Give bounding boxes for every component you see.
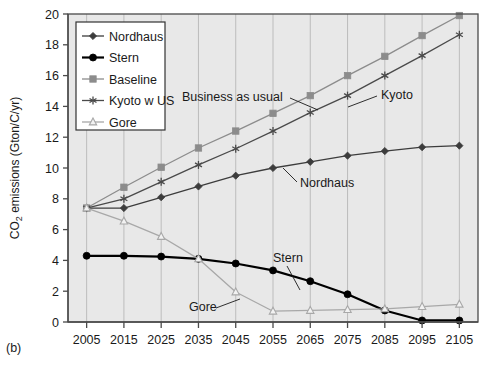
annotation-nordhaus: Nordhaus bbox=[300, 176, 354, 190]
y-tick-label-18: 18 bbox=[45, 38, 59, 52]
point-stern-2055 bbox=[270, 267, 277, 274]
y-tick-label-0: 0 bbox=[52, 316, 59, 330]
point-baseline-2105 bbox=[456, 12, 462, 18]
point-baseline-2035 bbox=[195, 145, 201, 151]
x-tick-label-2045: 2045 bbox=[222, 333, 250, 347]
point-baseline-2085 bbox=[382, 53, 388, 59]
y-tick-label-6: 6 bbox=[52, 223, 59, 237]
y-tick-label-4: 4 bbox=[52, 254, 59, 268]
y-tick-label-10: 10 bbox=[45, 162, 59, 176]
y-tick-label-16: 16 bbox=[45, 69, 59, 83]
point-baseline-2025 bbox=[158, 164, 164, 170]
legend-label-nordhaus: Nordhaus bbox=[109, 30, 163, 44]
x-tick-label-2055: 2055 bbox=[259, 333, 287, 347]
point-stern-2005 bbox=[83, 252, 90, 259]
legend-marker-baseline bbox=[90, 76, 96, 82]
legend-label-stern: Stern bbox=[109, 51, 139, 65]
legend-marker-stern bbox=[90, 54, 97, 61]
y-tick-label-8: 8 bbox=[52, 192, 59, 206]
point-baseline-2065 bbox=[307, 92, 313, 98]
y-tick-label-14: 14 bbox=[45, 100, 59, 114]
annotation-kyoto: Kyoto bbox=[381, 88, 413, 102]
chart-legend: NordhausSternBaselineKyoto w USGore bbox=[76, 22, 174, 130]
point-stern-2025 bbox=[158, 253, 165, 260]
y-tick-label-12: 12 bbox=[45, 131, 59, 145]
x-tick-label-2015: 2015 bbox=[110, 333, 138, 347]
x-tick-label-2105: 2105 bbox=[445, 333, 473, 347]
y-tick-label-20: 20 bbox=[45, 8, 59, 22]
point-baseline-2015 bbox=[121, 184, 127, 190]
figure-panel-b: 02468101214161820 2005201520252035204520… bbox=[0, 0, 492, 365]
co2-emissions-scenarios-chart: 02468101214161820 2005201520252035204520… bbox=[0, 0, 492, 365]
x-tick-label-2065: 2065 bbox=[296, 333, 324, 347]
x-tick-label-2035: 2035 bbox=[185, 333, 213, 347]
point-stern-2015 bbox=[120, 252, 127, 259]
y-axis-title-post: emissions (Gton/C/yr) bbox=[8, 97, 22, 216]
point-baseline-2045 bbox=[233, 128, 239, 134]
legend-label-gore: Gore bbox=[109, 116, 137, 130]
x-tick-label-2005: 2005 bbox=[73, 333, 101, 347]
legend-label-baseline: Baseline bbox=[109, 73, 157, 87]
point-stern-2075 bbox=[344, 291, 351, 298]
annotation-gore: Gore bbox=[189, 300, 217, 314]
point-baseline-2055 bbox=[270, 110, 276, 116]
point-stern-2045 bbox=[232, 260, 239, 267]
x-tick-label-2025: 2025 bbox=[147, 333, 175, 347]
annotation-business-as-usual: Business as usual bbox=[182, 90, 283, 104]
point-baseline-2075 bbox=[344, 72, 350, 78]
annotation-stern: Stern bbox=[273, 251, 303, 265]
legend-label-kyoto-w-us: Kyoto w US bbox=[109, 94, 174, 108]
point-baseline-2095 bbox=[419, 32, 425, 38]
x-tick-label-2085: 2085 bbox=[371, 333, 399, 347]
panel-label: (b) bbox=[6, 341, 21, 355]
point-stern-2065 bbox=[307, 278, 314, 285]
x-tick-label-2075: 2075 bbox=[334, 333, 362, 347]
y-tick-label-2: 2 bbox=[52, 285, 59, 299]
x-tick-label-2095: 2095 bbox=[408, 333, 436, 347]
y-axis-title-pre: CO bbox=[8, 221, 22, 239]
